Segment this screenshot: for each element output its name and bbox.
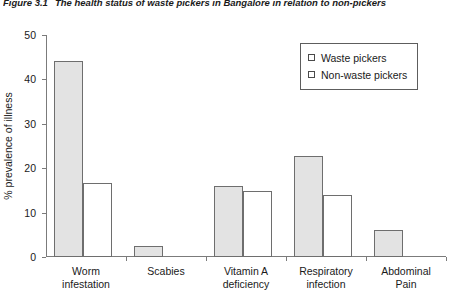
legend-item: Waste pickers bbox=[308, 49, 407, 66]
legend-swatch-non-waste-pickers bbox=[308, 71, 315, 78]
figure-caption-text: The health status of waste pickers in Ba… bbox=[55, 0, 386, 8]
y-axis-tick-label: 40 bbox=[24, 73, 36, 85]
x-axis-category-label: Scabies bbox=[124, 265, 208, 278]
x-axis-category-label: Vitamin A deficiency bbox=[204, 265, 288, 291]
x-axis-category-label: Respiratory infection bbox=[284, 265, 368, 291]
y-axis-tick: 40 bbox=[42, 79, 46, 80]
x-axis-category-label: Abdominal Pain bbox=[364, 265, 448, 291]
legend-item: Non-waste pickers bbox=[308, 66, 407, 83]
legend-label-non-waste-pickers: Non-waste pickers bbox=[321, 69, 407, 81]
y-axis-tick: 30 bbox=[42, 124, 46, 125]
bar bbox=[323, 195, 352, 257]
bar bbox=[134, 246, 163, 257]
legend-label-waste-pickers: Waste pickers bbox=[321, 52, 387, 64]
x-axis-tick bbox=[206, 257, 207, 261]
figure-caption: Figure 3.1The health status of waste pic… bbox=[3, 0, 449, 8]
y-axis-tick-label: 50 bbox=[24, 29, 36, 41]
bar bbox=[243, 191, 272, 257]
y-axis-tick: 50 bbox=[42, 35, 46, 36]
bar bbox=[374, 230, 403, 257]
bar bbox=[294, 156, 323, 257]
y-axis-tick: 0 bbox=[42, 257, 46, 258]
bar bbox=[54, 61, 83, 257]
y-axis-tick-label: 20 bbox=[24, 162, 36, 174]
y-axis-label: % prevalence of illness bbox=[2, 92, 14, 199]
chart-legend: Waste pickers Non-waste pickers bbox=[300, 43, 418, 90]
x-axis-tick bbox=[366, 257, 367, 261]
bar bbox=[83, 183, 112, 257]
y-axis-tick-label: 30 bbox=[24, 118, 36, 130]
figure-number: Figure 3.1 bbox=[3, 0, 55, 8]
figure-container: Figure 3.1The health status of waste pic… bbox=[0, 0, 452, 293]
y-axis-tick-label: 0 bbox=[30, 251, 36, 263]
x-axis-tick bbox=[126, 257, 127, 261]
legend-swatch-waste-pickers bbox=[308, 54, 315, 61]
x-axis-category-label: Worm infestation bbox=[44, 265, 128, 291]
bar bbox=[214, 186, 243, 257]
y-axis-tick: 20 bbox=[42, 168, 46, 169]
y-axis-tick-label: 10 bbox=[24, 207, 36, 219]
y-axis-tick: 10 bbox=[42, 213, 46, 214]
x-axis-tick bbox=[286, 257, 287, 261]
y-axis bbox=[46, 35, 47, 257]
x-axis-tick bbox=[446, 257, 447, 261]
